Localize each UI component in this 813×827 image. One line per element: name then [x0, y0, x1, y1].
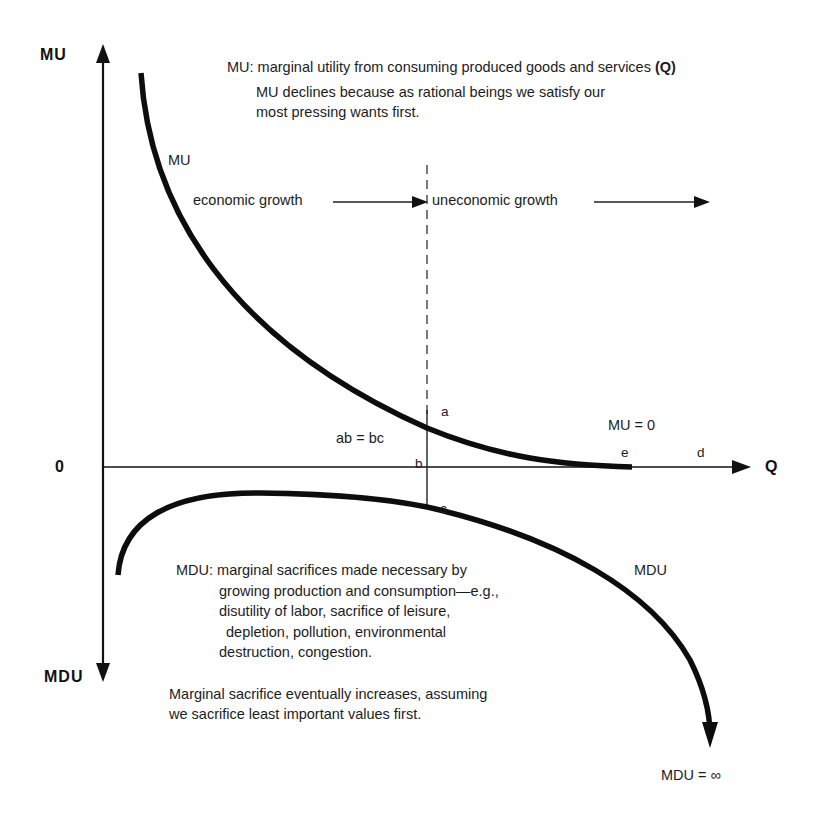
economic-growth-label: economic growth: [193, 192, 303, 209]
origin-label: 0: [55, 458, 65, 475]
mdu-definition-line: MDU: marginal sacrifices made necessary …: [176, 560, 499, 581]
mdu-increase-line: Marginal sacrifice eventually increases,…: [169, 684, 487, 704]
mu-definition-q: (Q): [655, 59, 676, 75]
point-d-label: d: [697, 444, 705, 461]
point-c-label: c: [440, 500, 447, 517]
mdu-infinity-text: MDU = ∞: [661, 767, 721, 783]
economic-growth-arrow: [333, 196, 428, 208]
mu-curve-label: MU: [168, 152, 191, 169]
point-e-label: e: [621, 444, 629, 461]
mu-axis-arrowhead-icon: [96, 44, 110, 63]
mu-definition: MU: marginal utility from consuming prod…: [227, 59, 676, 76]
vertical-axis: [96, 44, 110, 682]
mu-axis-label: MU: [40, 46, 67, 63]
uneconomic-growth-arrow: [594, 196, 710, 208]
mu-decline-line: most pressing wants first.: [256, 102, 605, 122]
mu-zero-label: MU = 0: [608, 417, 655, 434]
mu-definition-text: MU: marginal utility from consuming prod…: [227, 59, 655, 75]
mdu-definition-line: destruction, congestion.: [176, 642, 499, 663]
mu-decline-line: MU declines because as rational beings w…: [256, 82, 605, 102]
mdu-definition-line: disutility of labor, sacrifice of leisur…: [176, 601, 499, 622]
quantity-axis-label: Q: [765, 458, 778, 475]
mu-decline-note: MU declines because as rational beings w…: [256, 82, 605, 122]
mdu-curve-label: MDU: [634, 562, 667, 579]
mdu-increase-note: Marginal sacrifice eventually increases,…: [169, 684, 487, 724]
mdu-definition-line: depletion, pollution, environmental: [176, 622, 499, 643]
uneconomic-growth-label: uneconomic growth: [432, 192, 558, 209]
q-axis-arrowhead-icon: [732, 460, 751, 474]
equality-label: ab = bc: [336, 430, 384, 447]
mdu-definition-line: growing production and consumption—e.g.,: [176, 581, 499, 602]
point-a-label: a: [441, 403, 449, 420]
mdu-infinity-arrowhead-icon: [702, 722, 718, 748]
mdu-definition: MDU: marginal sacrifices made necessary …: [176, 560, 499, 663]
mu-curve: [141, 73, 632, 467]
mdu-increase-line: we sacrifice least important values firs…: [169, 704, 487, 724]
mdu-axis-arrowhead-icon: [96, 663, 110, 682]
mdu-infinity-label: MDU = ∞: [661, 767, 721, 784]
mdu-axis-label: MDU: [44, 668, 83, 685]
point-b-label: b: [415, 455, 423, 472]
